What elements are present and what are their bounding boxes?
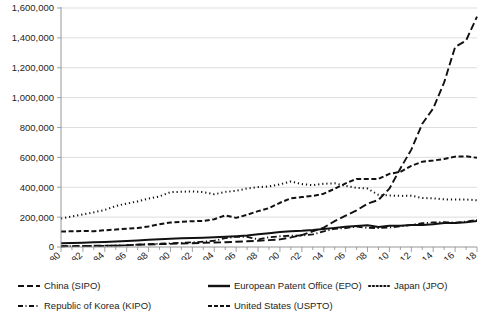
x-tick-label: 1994 — [193, 250, 216, 260]
legend-item-china: China (SIPO) — [18, 281, 208, 291]
legend-swatch-china — [18, 281, 40, 291]
x-tick-label: 2016 — [434, 250, 457, 260]
x-tick-label: 2012 — [390, 250, 413, 260]
legend-label-japan: Japan (JPO) — [394, 281, 447, 291]
x-tick-label: 1984 — [83, 250, 106, 260]
y-tick-label: 1,000,000 — [12, 92, 54, 103]
legend-swatch-epo — [208, 281, 230, 291]
x-tick-label: 1982 — [62, 250, 85, 260]
x-tick-label: 2010 — [368, 250, 391, 260]
plot-area: 0200,000400,000600,000800,0001,000,0001,… — [0, 0, 481, 260]
x-tick-label: 2014 — [412, 250, 435, 260]
legend-row-2: Republic of Korea (KIPO) United States (… — [0, 298, 481, 311]
legend-item-japan: Japan (JPO) — [368, 281, 447, 291]
x-tick-label: 1990 — [149, 250, 172, 260]
x-tick-label: 2004 — [302, 250, 325, 260]
legend-swatch-usa — [208, 301, 230, 311]
series-line-4 — [61, 156, 477, 231]
x-tick-label: 1992 — [171, 250, 194, 260]
y-tick-label: 600,000 — [20, 152, 54, 163]
legend-label-korea: Republic of Korea (KIPO) — [44, 301, 151, 311]
x-tick-label: 2018 — [456, 250, 479, 260]
legend-row-1: China (SIPO) European Patent Office (EPO… — [0, 278, 481, 294]
patent-applications-line-chart: 0200,000400,000600,000800,0001,000,0001,… — [0, 0, 481, 311]
legend-swatch-korea — [18, 301, 40, 311]
chart-legend: China (SIPO) European Patent Office (EPO… — [0, 278, 481, 311]
y-tick-label: 1,200,000 — [12, 62, 54, 73]
y-tick-label: 1,600,000 — [12, 2, 54, 13]
x-tick-label: 1988 — [127, 250, 150, 260]
legend-label-epo: European Patent Office (EPO) — [234, 281, 362, 291]
legend-swatch-japan — [368, 281, 390, 291]
x-tick-label: 2006 — [324, 250, 347, 260]
x-tick-label: 1998 — [237, 250, 260, 260]
x-axis-tick-labels: 1980198219841986198819901992199419961998… — [40, 250, 479, 260]
x-tick-label: 2002 — [281, 250, 304, 260]
legend-item-korea: Republic of Korea (KIPO) — [18, 301, 208, 311]
x-tick-label: 2000 — [259, 250, 282, 260]
x-tick-label: 1996 — [215, 250, 238, 260]
y-tick-label: 800,000 — [20, 122, 54, 133]
y-tick-label: 400,000 — [20, 182, 54, 193]
y-axis-tick-labels: 0200,000400,000600,000800,0001,000,0001,… — [12, 2, 54, 252]
legend-label-china: China (SIPO) — [44, 281, 101, 291]
x-tick-label: 1986 — [105, 250, 128, 260]
y-tick-label: 200,000 — [20, 212, 54, 223]
y-tick-label: 1,400,000 — [12, 32, 54, 43]
series-line-0 — [61, 17, 477, 247]
x-tick-label: 2008 — [346, 250, 369, 260]
legend-item-epo: European Patent Office (EPO) — [208, 281, 368, 291]
data-series-layer — [61, 17, 477, 247]
legend-label-usa: United States (USPTO) — [234, 301, 333, 311]
x-axis-tick-marks — [61, 247, 477, 252]
axis-lines — [61, 7, 477, 247]
gridlines — [57, 8, 477, 247]
chart-canvas: 0200,000400,000600,000800,0001,000,0001,… — [0, 0, 481, 260]
legend-item-usa: United States (USPTO) — [208, 301, 333, 311]
